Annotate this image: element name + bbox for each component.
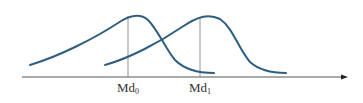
median-label-1-text: Md [189,80,207,95]
median-label-1: Md1 [189,80,211,96]
distribution-shift-diagram: Md0 Md1 [0,0,363,103]
distribution-curve-1 [105,16,286,73]
axis-arrowhead-icon [341,75,348,80]
median-label-1-subscript: 1 [207,87,211,96]
median-label-0-subscript: 0 [135,87,139,96]
diagram-canvas [0,0,363,103]
median-label-0: Md0 [117,80,139,96]
median-label-0-text: Md [117,80,135,95]
